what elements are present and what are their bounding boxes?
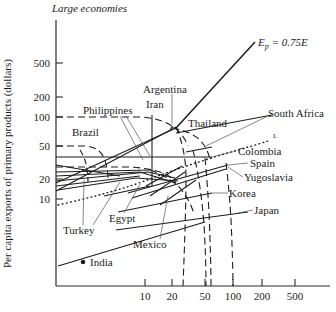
label-colombia: Colombia [238, 145, 282, 157]
label-iran: Iran [146, 98, 164, 110]
label-yugoslavia: Yugoslavia [244, 171, 293, 183]
y-axis-title: Per capita exports of primary products (… [1, 59, 14, 268]
y-tick-label-20: 20 [39, 173, 51, 185]
chart-canvas: Large economies Per capita exports of pr… [0, 0, 336, 312]
x-tick-label-200: 200 [254, 290, 271, 302]
label-india: India [90, 256, 113, 268]
equation-rest: = 0.75E [269, 36, 308, 48]
label-spain: Spain [250, 157, 276, 169]
label-brazil: Brazil [72, 126, 99, 138]
label-philippines: Philippines [83, 104, 133, 116]
dotted-curve-label-L: L [273, 132, 277, 140]
label-south-africa: South Africa [268, 107, 324, 119]
label-mexico: Mexico [133, 238, 167, 250]
x-tick-label-10: 10 [140, 290, 152, 302]
x-tick-label-50: 50 [200, 290, 212, 302]
label-turkey: Turkey [63, 224, 95, 236]
label-korea: Korea [229, 187, 256, 199]
india-point-marker [81, 260, 86, 265]
label-egypt: Egypt [109, 212, 135, 224]
y-tick-label-50: 50 [39, 140, 51, 152]
y-tick-label-10: 10 [39, 193, 51, 205]
x-tick-label-100: 100 [225, 290, 242, 302]
chart-title: Large economies [51, 2, 127, 14]
x-tick-label-500: 500 [287, 290, 304, 302]
y-tick-label-200: 200 [34, 91, 51, 103]
label-thailand: Thailand [188, 117, 228, 129]
x-tick-label-20: 20 [167, 290, 179, 302]
label-argentina: Argentina [143, 83, 187, 95]
chart-figure: Large economies Per capita exports of pr… [0, 0, 336, 312]
label-japan: Japan [254, 204, 280, 216]
y-tick-label-500: 500 [34, 57, 51, 69]
y-tick-label-100: 100 [34, 111, 51, 123]
